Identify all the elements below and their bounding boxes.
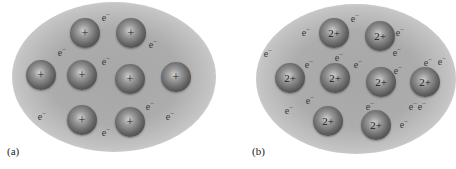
electron-label: e− <box>424 56 432 68</box>
ion-sphere: 2+ <box>313 106 343 136</box>
electron-label: e− <box>149 38 157 50</box>
electron-label: e− <box>166 110 174 122</box>
electron-label: e− <box>438 55 446 67</box>
ion-sphere: 2+ <box>320 63 350 93</box>
ion-sphere: + <box>116 18 146 48</box>
electron-label: e− <box>400 118 408 130</box>
ion-sphere: 2+ <box>410 67 440 97</box>
ion-sphere: + <box>26 60 56 90</box>
electron-label: e− <box>305 58 313 70</box>
electron-label: e− <box>285 104 293 116</box>
ion-sphere: 2+ <box>319 18 349 48</box>
ion-sphere: + <box>115 107 145 137</box>
ion-sphere: 2+ <box>275 63 305 93</box>
electron-label: e− <box>396 26 404 38</box>
electron-label: e− <box>354 58 362 70</box>
electron-label: e− <box>335 51 343 63</box>
electron-label: e− <box>409 100 417 112</box>
electron-label: e− <box>58 46 66 58</box>
electron-label: e− <box>351 12 359 24</box>
electron-label: e− <box>418 100 426 112</box>
electron-label: e− <box>366 100 374 112</box>
ion-sphere: 2+ <box>361 110 391 140</box>
ion-sphere: + <box>67 105 97 135</box>
ion-sphere: + <box>161 62 191 92</box>
ion-sphere: 2+ <box>366 67 396 97</box>
electron-label: e− <box>102 11 110 23</box>
electron-label: e− <box>102 126 110 138</box>
electron-label: e− <box>302 26 310 38</box>
electron-label: e− <box>264 47 272 59</box>
electron-label: e− <box>38 110 46 122</box>
electron-label: e− <box>393 46 401 58</box>
ion-sphere: + <box>67 60 97 90</box>
ion-sphere: + <box>70 18 100 48</box>
electron-label: e− <box>306 94 314 106</box>
ion-sphere: 2+ <box>365 21 395 51</box>
electron-label: e− <box>102 55 110 67</box>
panel-label-a: (a) <box>7 145 19 157</box>
panel-label-b: (b) <box>252 145 265 157</box>
electron-label: e− <box>394 64 402 76</box>
electron-label: e− <box>146 100 154 112</box>
ion-sphere: + <box>115 64 145 94</box>
